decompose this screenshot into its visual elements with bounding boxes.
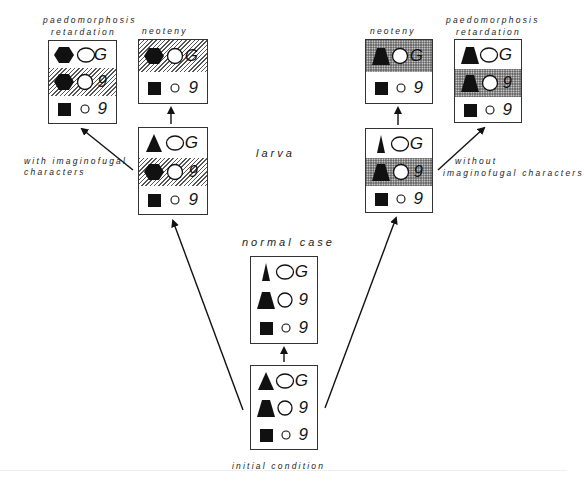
arrow-initial-to-right-larva — [325, 218, 396, 408]
arrow-initial-to-left-larva — [173, 221, 243, 410]
caption-divider — [0, 470, 567, 471]
arrow-left-larva-to-paedomorphosis — [82, 129, 133, 170]
arrow-right-larva-to-paedomorphosis — [438, 128, 484, 170]
